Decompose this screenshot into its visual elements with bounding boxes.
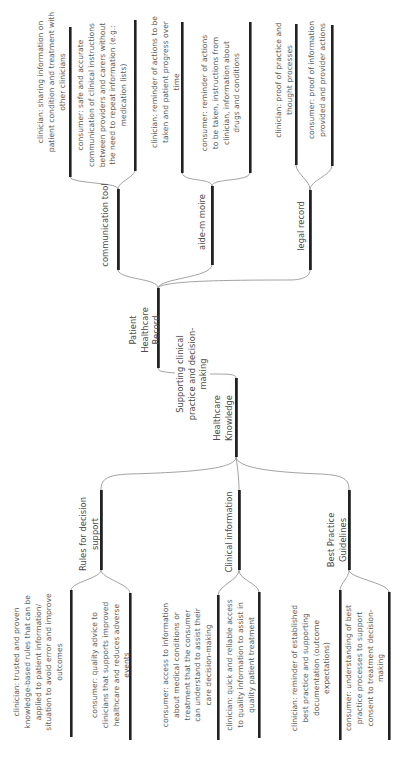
hk-bar — [235, 378, 238, 457]
branch-bar — [117, 189, 120, 270]
leaf-bar — [331, 25, 334, 166]
leaf-label-legal-clinician: clinician: proof of practice and thought… — [274, 15, 296, 145]
branch-label-rules-decision-support: Rules for decision support — [78, 494, 101, 574]
node-label-healthcare-knowledge: Healthcare Knowledge — [212, 383, 235, 453]
leaf-label-best-consumer: consumer: understanding of best practice… — [344, 598, 387, 738]
leaf-bar — [70, 590, 73, 737]
root-label-supporting-clinical-practice: Supporting clinical practice and decisio… — [175, 324, 210, 424]
leaf-label-comm-consumer: consumer: safe and accurate communicatio… — [76, 20, 130, 170]
leaf-bar — [249, 22, 252, 173]
leaf-bar — [69, 27, 72, 177]
leaf-label-clinical-clinician: clinician: quick and reliable access to … — [225, 595, 257, 735]
node-label-patient-healthcare-record: Patient Healthcare Record — [128, 293, 163, 368]
leaf-bar — [134, 20, 137, 171]
leaf-bar — [217, 595, 220, 740]
branch-bar — [238, 490, 241, 570]
leaf-bar — [258, 592, 261, 738]
leaf-label-aide-consumer: consumer: reminder of actions to be take… — [200, 33, 243, 153]
healthcare-record-knowledge-tree: clinician: sharing information on patien… — [0, 0, 411, 770]
leaf-label-clinical-consumer: consumer: access to information about me… — [161, 603, 215, 728]
leaf-bar — [339, 590, 342, 740]
leaf-label-aide-clinician: clinician: reminder of actions to be tak… — [150, 12, 182, 152]
leaf-label-rules-consumer: consumer: quality advice to clinicians t… — [90, 600, 133, 730]
leaf-label-legal-consumer: consumer: proof of information provided … — [307, 15, 329, 145]
branch-bar — [309, 190, 312, 270]
leaf-label-comm-clinician: clinician: sharing information on patien… — [36, 7, 68, 157]
leaf-label-best-clinician: clinician: reminder of established best … — [290, 603, 333, 733]
leaf-label-rules-clinician: clinician: trusted and proven knowledge-… — [12, 587, 66, 737]
leaf-bar — [388, 592, 391, 740]
branch-label-aide-memoire: aide-m moire — [197, 177, 209, 267]
branch-label-best-practice-guidelines: Best Practice Guidelines — [326, 505, 349, 575]
branch-label-communication-tool: communication tool — [100, 165, 112, 285]
branch-label-clinical-information: Clinical information — [224, 482, 236, 582]
branch-label-legal-record: legal record — [296, 181, 308, 271]
branch-bar — [211, 186, 214, 265]
